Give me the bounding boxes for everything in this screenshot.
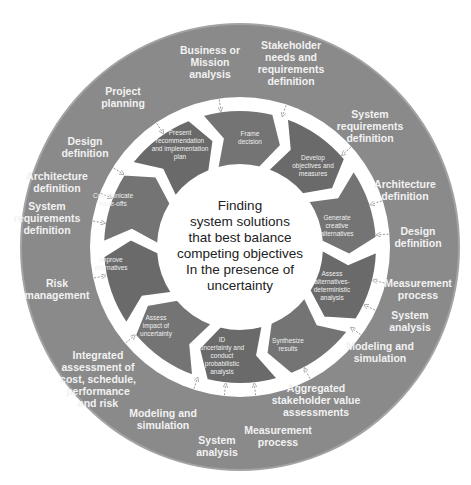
outer-ring-label: Design definition [394, 225, 441, 249]
outer-ring-label: Stakeholder needs and requirements defin… [258, 39, 325, 87]
process-step-label: ID uncertainty and conduct probabilistic… [200, 336, 244, 376]
outer-ring-label: Modeling and simulation [129, 407, 197, 431]
process-step-label: Generate creative alternatives [320, 214, 353, 238]
outer-ring-label: Design definition [61, 135, 108, 159]
outer-ring-label: System analysis [389, 309, 430, 333]
process-step-label: Improve alternatives [94, 256, 127, 272]
outer-ring-label: Aggregated stakeholder value assessments [272, 382, 361, 418]
process-step-label: Present recommendation and implementatio… [152, 129, 209, 161]
outer-ring-label: Measurement process [244, 424, 312, 448]
center-objective-text: Finding system solutions that best balan… [165, 198, 315, 294]
process-step-label: Communicate trade-offs [93, 192, 133, 208]
outer-ring-label: Measurement process [384, 277, 452, 301]
process-step-label: Assess alternatives- deterministic analy… [314, 270, 350, 302]
outer-ring-label: System analysis [196, 434, 237, 458]
outer-ring-label: Modeling and simulation [346, 340, 414, 364]
outer-ring-label: Business or Mission analysis [180, 44, 240, 80]
process-step-label: Frame decision [238, 130, 262, 146]
outer-ring-label: Risk management [25, 277, 90, 301]
outer-ring-label: Integrated assessment of cost, schedule,… [60, 349, 136, 409]
outer-ring-label: System requirements definition [14, 200, 81, 236]
outer-ring-label: Architecture definition [374, 178, 436, 202]
process-step-label: Develop objectives and measures [292, 154, 334, 178]
outer-ring-label: Project planning [101, 85, 145, 109]
outer-ring-label: System requirements definition [337, 108, 404, 144]
process-step-label: Assess impact of uncertainty [140, 314, 172, 338]
process-step-label: Synthesize results [272, 337, 304, 353]
outer-ring-label: Architecture definition [26, 170, 88, 194]
